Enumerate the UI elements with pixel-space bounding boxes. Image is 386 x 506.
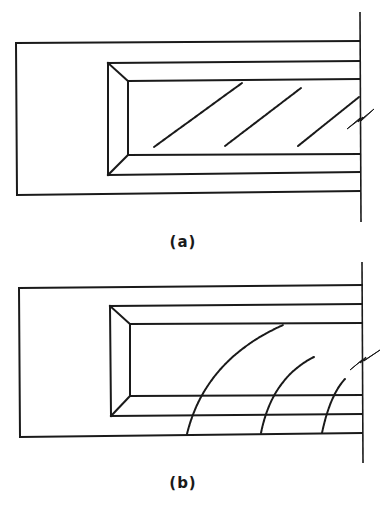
chamfer-bottom xyxy=(111,396,130,416)
curved-crack-3 xyxy=(322,379,345,433)
panel-a-label: (a) xyxy=(170,233,197,251)
diagonal-crack-2 xyxy=(225,88,301,146)
panel-b-diagram xyxy=(19,262,380,463)
figure-canvas xyxy=(0,0,386,506)
chamfer-top xyxy=(108,63,128,81)
panel-a-diagram xyxy=(16,12,374,222)
chamfer-bottom xyxy=(108,155,128,175)
diagonal-crack-3 xyxy=(298,97,359,146)
diagonal-crack-1 xyxy=(154,83,242,147)
flange-outline xyxy=(108,61,360,175)
panel-b-label: (b) xyxy=(169,474,196,492)
web-outline xyxy=(130,323,362,396)
chamfer-top xyxy=(110,306,130,324)
flange-outline xyxy=(110,304,362,416)
web-outline xyxy=(128,79,360,155)
curved-crack-1 xyxy=(187,325,283,434)
break-symbol-icon xyxy=(350,350,380,370)
